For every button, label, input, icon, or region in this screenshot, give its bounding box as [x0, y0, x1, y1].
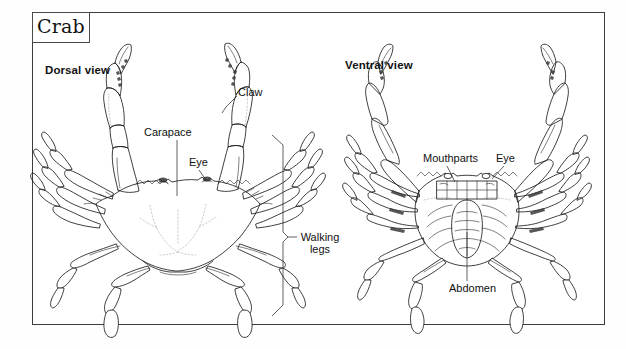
- label-claw: Claw: [238, 86, 262, 98]
- label-eye-dorsal: Eye: [189, 156, 208, 168]
- figure-frame: [32, 12, 605, 325]
- label-carapace: Carapace: [144, 126, 192, 138]
- figure-page: Crab Dorsal view Ventral view Claw Carap…: [0, 0, 626, 349]
- dorsal-view-heading: Dorsal view: [45, 64, 110, 76]
- label-abdomen: Abdomen: [449, 282, 496, 294]
- label-eye-ventral: Eye: [496, 152, 515, 164]
- figure-title-box: Crab: [32, 12, 90, 43]
- label-mouthparts: Mouthparts: [423, 152, 478, 164]
- ventral-view-heading: Ventral view: [345, 59, 413, 71]
- label-walking-legs: Walking legs: [299, 231, 341, 255]
- page-title: Crab: [37, 17, 85, 38]
